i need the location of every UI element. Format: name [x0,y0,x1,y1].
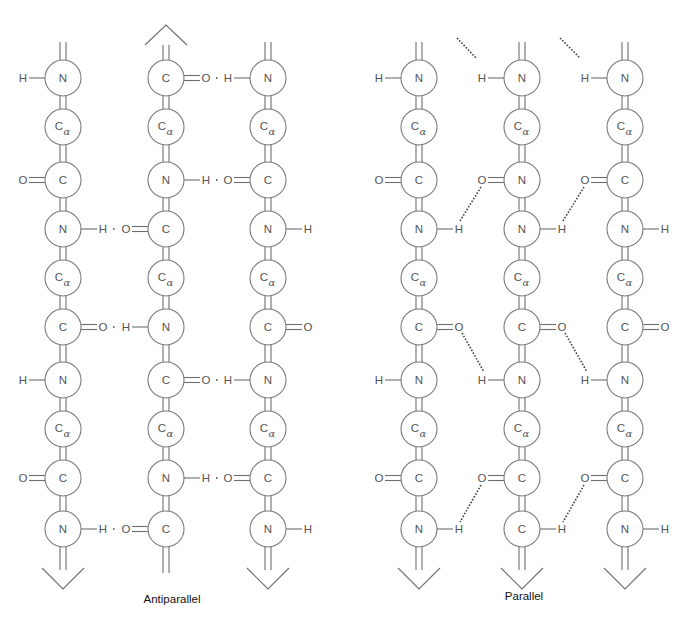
atom-c-alpha: Cα [504,109,540,145]
atom-label: N [162,472,170,484]
atom-n: N [148,309,184,345]
arrow-down-icon [501,568,543,589]
atom-n: N [607,60,643,96]
atom-label: N [264,72,272,84]
alpha-subscript: α [167,277,174,288]
atom-n: N [607,362,643,398]
atom-c-alpha: Cα [45,260,81,296]
atom-label: C [415,472,423,484]
hydrogen-bond [457,38,476,58]
atom-c-alpha: Cα [45,411,81,447]
atom-c-alpha: Cα [401,260,437,296]
arrow-down-icon [247,568,289,589]
hydrogen-atom: H [202,472,210,484]
antiparallel-sheet: HOHOHOHNCαCNCαCNCαCNOHOHOHOCCαNCCαNCCαNC… [19,25,313,589]
antiparallel-strand-2: OHOHOHOCCαNCCαNCCαNC [122,25,211,573]
atom-label: N [518,174,526,186]
hydrogen-bond [462,333,484,372]
oxygen-atom: O [224,472,233,484]
hydrogen-atom: H [581,72,589,84]
atom-c: C [45,162,81,198]
atom-n: N [45,60,81,96]
atom-label: C [264,321,272,333]
atom-n: N [148,162,184,198]
atom-label: N [59,374,67,386]
alpha-subscript: α [269,126,276,137]
hydrogen-bond [563,187,584,221]
atom-label: C [621,321,629,333]
atom-c-alpha: Cα [504,260,540,296]
oxygen-atom: O [455,321,464,333]
hydrogen-bond [563,485,584,522]
atom-label: C [411,422,419,434]
atom-label: C [162,374,170,386]
atom-c-alpha: Cα [250,260,286,296]
atom-label: C [260,271,268,283]
hydrogen-atom: H [661,523,669,535]
hydrogen-atom: H [581,374,589,386]
atom-c-alpha: Cα [401,109,437,145]
atom-label: C [411,271,419,283]
atom-n: N [401,60,437,96]
oxygen-atom: O [304,321,313,333]
parallel-strand-2: HOHOHOHNCαNNCαCNCαCC [478,42,567,589]
atom-label: C [59,472,67,484]
oxygen-atom: O [478,472,487,484]
atom-c: C [250,162,286,198]
atom-label: C [55,120,63,132]
atom-c: C [148,211,184,247]
atom-label: C [518,321,526,333]
arrow-up-icon [145,25,187,45]
atom-n: N [250,211,286,247]
atom-label: C [158,422,166,434]
hydrogen-atom: H [224,374,232,386]
hydrogen-bond [460,187,481,221]
atom-c: C [607,162,643,198]
atom-label: C [621,174,629,186]
antiparallel-strand-3: HOHOHOHNCαCNCαCNCαCN [224,42,313,589]
atom-label: C [621,472,629,484]
alpha-subscript: α [420,126,427,137]
atom-label: C [518,472,526,484]
atom-c-alpha: Cα [148,411,184,447]
atom-n: N [148,460,184,496]
atom-label: N [415,223,423,235]
oxygen-atom: O [122,223,131,235]
beta-sheet-diagram: HOHOHOHNCαCNCαCNCαCNOHOHOHOCCαNCCαNCCαNC… [0,0,689,618]
atom-label: N [59,223,67,235]
alpha-subscript: α [626,277,633,288]
arrow-down-icon [604,568,646,589]
atom-c: C [401,460,437,496]
alpha-subscript: α [626,126,633,137]
alpha-subscript: α [420,428,427,439]
parallel-label: Parallel [505,590,543,602]
atom-c-alpha: Cα [250,411,286,447]
hydrogen-atom: H [661,223,669,235]
atom-c-alpha: Cα [504,411,540,447]
hydrogen-atom: H [122,321,130,333]
atom-label: N [621,523,629,535]
hydrogen-atom: H [478,72,486,84]
hydrogen-atom: H [304,223,312,235]
atom-label: C [162,523,170,535]
atom-c: C [607,460,643,496]
atom-c: C [148,362,184,398]
atom-c: C [607,309,643,345]
atom-c: C [45,309,81,345]
alpha-subscript: α [269,277,276,288]
atom-label: C [260,120,268,132]
atom-label: C [260,422,268,434]
hydrogen-bond [460,485,481,522]
atom-label: N [415,374,423,386]
atom-c: C [148,511,184,547]
parallel-sheet: HOHOHOHNCαCNCαCNCαCNHOHOHOHNCαNNCαCNCαCC… [375,38,670,589]
hydrogen-bond [560,38,580,58]
atom-c-alpha: Cα [607,411,643,447]
atom-label: N [621,374,629,386]
alpha-subscript: α [64,428,71,439]
atom-label: C [158,120,166,132]
atom-n: N [45,511,81,547]
antiparallel-label: Antiparallel [144,593,201,605]
atom-c-alpha: Cα [401,411,437,447]
atom-label: C [55,422,63,434]
